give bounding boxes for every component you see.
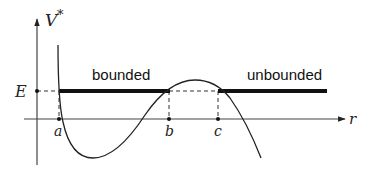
bounded-region-label: bounded	[92, 66, 150, 83]
potential-diagram: V * r E a b c bounded unbounded	[0, 0, 368, 172]
unbounded-region-label: unbounded	[247, 66, 322, 83]
dashed-guides	[37, 91, 218, 119]
point-b-label: b	[165, 123, 174, 139]
potential-curve	[58, 45, 261, 158]
y-axis-label-superscript: *	[57, 7, 64, 22]
point-a-label: a	[54, 123, 62, 139]
energy-label: E	[14, 82, 27, 101]
point-c-label: c	[214, 123, 222, 139]
x-axis-label: r	[349, 110, 357, 128]
marker-dots	[35, 89, 220, 121]
